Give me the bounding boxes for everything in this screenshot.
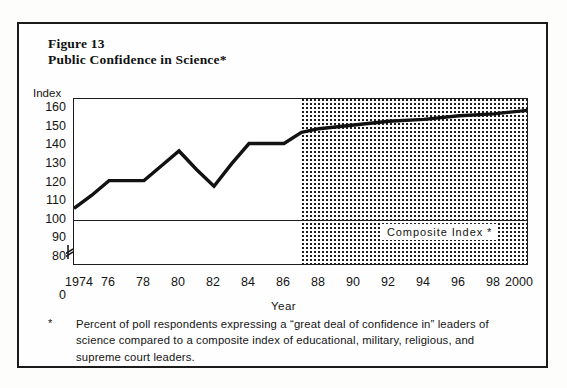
y-tick-label: 130 [45, 157, 66, 170]
x-tick-label: 82 [206, 276, 220, 289]
y-tick-label: 120 [45, 176, 66, 189]
footnote-text: Percent of poll respondents expressing a… [76, 316, 518, 365]
composite-index-label: Composite Index * [382, 224, 497, 240]
x-tick-label: 86 [276, 276, 290, 289]
y-tick-label: 100 [45, 213, 66, 226]
x-axis-title: Year [0, 300, 567, 312]
x-tick-label: 78 [136, 276, 150, 289]
y-tick-label: 90 [52, 231, 66, 244]
footnote-marker: * [48, 316, 62, 332]
x-tick-label: 90 [346, 276, 360, 289]
x-tick-label: 92 [381, 276, 395, 289]
x-tick-label: 94 [416, 276, 430, 289]
series-polyline [74, 110, 527, 208]
y-tick-label: 110 [46, 194, 66, 207]
chart-plot-inner: Composite Index * [74, 99, 527, 264]
x-tick-label: 2000 [505, 276, 533, 289]
y-axis-labels: 16015014013012011010090800 [28, 98, 66, 265]
y-tick-label: 160 [45, 101, 66, 114]
page-title: Public Confidence in Science* [48, 52, 227, 68]
figure-number: Figure 13 [48, 36, 105, 52]
x-tick-label: 76 [101, 276, 115, 289]
x-tick-label: 84 [241, 276, 255, 289]
chart-plot-area: Composite Index * [73, 98, 528, 265]
y-tick-label: 150 [45, 120, 66, 133]
x-tick-label: 1974 [65, 276, 93, 289]
y-tick-label: 140 [45, 138, 66, 151]
footnote: * Percent of poll respondents expressing… [48, 316, 518, 365]
x-tick-label: 80 [171, 276, 185, 289]
x-tick-label: 98 [486, 276, 500, 289]
y-tick-label: 80 [52, 250, 66, 263]
x-tick-label: 88 [311, 276, 325, 289]
x-axis-labels: 19747678808284868890929496982000 [73, 276, 528, 292]
x-tick-label: 96 [451, 276, 465, 289]
figure-page: Figure 13 Public Confidence in Science* … [0, 0, 567, 388]
